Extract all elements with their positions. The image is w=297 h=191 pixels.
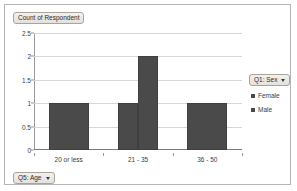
x-axis-tick-mark <box>103 153 104 156</box>
legend-item-label: Male <box>258 106 272 114</box>
y-axis-tick-label: 2 <box>27 53 31 60</box>
legend-swatch <box>251 94 255 98</box>
legend-field-button[interactable]: Q1: Sex <box>249 74 290 86</box>
bar[interactable] <box>187 103 227 150</box>
chevron-down-icon <box>46 177 50 180</box>
legend-item: Male <box>251 103 297 117</box>
legend-swatch <box>251 108 255 112</box>
legend-item-label: Female <box>258 92 280 100</box>
axis-field-label: Q5: Age <box>18 174 42 182</box>
chart-legend: FemaleMale <box>251 89 297 117</box>
y-axis-tick-label: 0.5 <box>22 123 31 130</box>
y-axis-tick-label: 2.5 <box>22 30 31 37</box>
y-axis-tick-label: 0 <box>27 147 31 154</box>
x-axis-tick-mark <box>34 153 35 156</box>
plot-area: 00.511.522.5 <box>34 33 242 150</box>
legend-field-label: Q1: Sex <box>254 76 277 84</box>
bars-layer <box>34 33 242 150</box>
legend-item: Female <box>251 89 297 103</box>
pivot-chart-frame: Count of Respondent 00.511.522.5 20 or l… <box>4 4 291 185</box>
chevron-down-icon <box>281 79 285 82</box>
y-axis-tick-label: 1 <box>27 100 31 107</box>
bar[interactable] <box>138 56 158 150</box>
bar[interactable] <box>49 103 89 150</box>
x-axis-labels: 20 or less21 - 3536 - 50 <box>34 153 242 167</box>
value-field-button[interactable]: Count of Respondent <box>13 12 84 24</box>
value-field-label: Count of Respondent <box>18 14 79 22</box>
x-axis-tick-mark <box>173 153 174 156</box>
x-axis-label: 21 - 35 <box>128 156 148 164</box>
axis-field-button[interactable]: Q5: Age <box>13 172 55 184</box>
x-axis-tick-mark <box>242 153 243 156</box>
y-axis-tick-label: 1.5 <box>22 76 31 83</box>
x-axis-label: 36 - 50 <box>197 156 217 164</box>
bar[interactable] <box>118 103 138 150</box>
plot-inner: 00.511.522.5 <box>34 33 242 150</box>
x-axis-label: 20 or less <box>55 156 83 164</box>
